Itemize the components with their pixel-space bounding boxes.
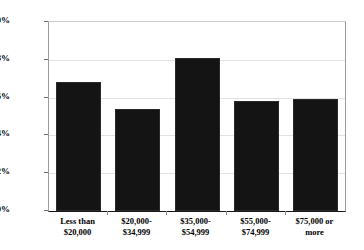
x-axis-tick-mark: [285, 211, 286, 215]
x-axis-tick-label: Less than $20,000: [48, 216, 107, 238]
x-axis-tick-mark: [107, 211, 108, 215]
x-axis-tick-mark: [226, 211, 227, 215]
x-axis-tick-label: $75,000 or more: [285, 216, 344, 238]
y-axis-tick-label: 4%: [0, 129, 10, 138]
plot-area: [48, 21, 346, 212]
x-axis-tick-label: $35,000- $54,999: [166, 216, 225, 238]
bar: [234, 101, 279, 211]
bar: [115, 109, 160, 211]
y-axis-tick-label: 0%: [0, 205, 10, 214]
y-axis-tick-label: 8%: [0, 54, 10, 63]
y-axis-tick-label: 10%: [0, 16, 10, 25]
bar: [293, 99, 338, 211]
bar: [56, 82, 101, 211]
bar: [175, 58, 220, 211]
x-axis-tick-label: $20,000- $34,999: [107, 216, 166, 238]
x-axis-tick-label: $55,000- $74,999: [226, 216, 285, 238]
y-axis-tick-label: 6%: [0, 92, 10, 101]
bar-chart: 0%2%4%6%8%10% Less than $20,000$20,000- …: [0, 0, 364, 250]
x-axis-tick-mark: [166, 211, 167, 215]
y-axis-tick-label: 2%: [0, 167, 10, 176]
